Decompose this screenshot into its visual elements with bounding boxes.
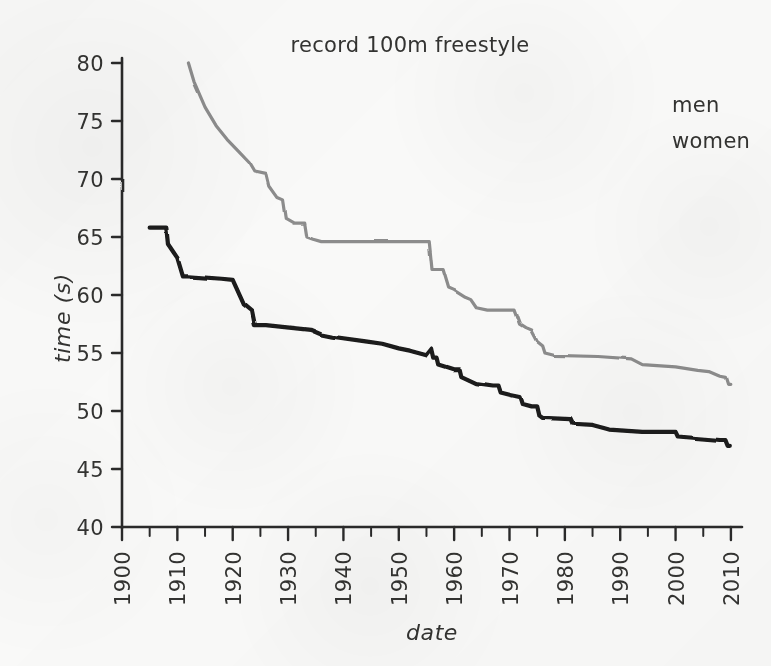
x-axis-title: date: [406, 620, 458, 645]
y-axis-tick-labels: 404550556065707580: [76, 52, 104, 540]
legend-label-men: men: [672, 93, 720, 117]
y-tick-label: 40: [76, 516, 104, 540]
line-chart: 404550556065707580 190019101920193019401…: [0, 0, 771, 666]
x-tick-label: 1980: [554, 551, 578, 606]
y-tick-label: 55: [76, 342, 104, 366]
y-axis-title: time (s): [50, 273, 75, 363]
x-tick-label: 1960: [443, 551, 467, 606]
legend-label-women: women: [672, 129, 750, 153]
y-tick-label: 45: [76, 458, 104, 482]
chart-title: record 100m freestyle: [290, 33, 529, 57]
x-tick-label: 2000: [665, 551, 689, 606]
y-tick-label: 50: [76, 400, 104, 424]
x-tick-label: 1970: [499, 551, 523, 606]
y-tick-label: 65: [76, 226, 104, 250]
y-axis-ticks: [112, 63, 122, 527]
y-tick-label: 80: [76, 52, 104, 76]
x-tick-label: 1910: [166, 551, 190, 606]
y-tick-label: 70: [76, 168, 104, 192]
series-line-women: [188, 63, 729, 384]
chart-container: 404550556065707580 190019101920193019401…: [0, 0, 771, 666]
series-line-men: [150, 228, 730, 446]
x-tick-label: 1920: [222, 551, 246, 606]
x-tick-label: 1990: [609, 551, 633, 606]
x-tick-label: 1940: [332, 551, 356, 606]
y-tick-label: 60: [76, 284, 104, 308]
x-tick-label: 1900: [111, 551, 135, 606]
x-tick-label: 2010: [720, 551, 744, 606]
chart-legend: menwomen: [598, 93, 750, 153]
y-tick-label: 75: [76, 110, 104, 134]
x-axis-tick-labels: 1900191019201930194019501960197019801990…: [111, 551, 744, 606]
x-tick-label: 1950: [388, 551, 412, 606]
x-tick-label: 1930: [277, 551, 301, 606]
axes: [112, 58, 742, 540]
data-series-group: [150, 63, 730, 446]
